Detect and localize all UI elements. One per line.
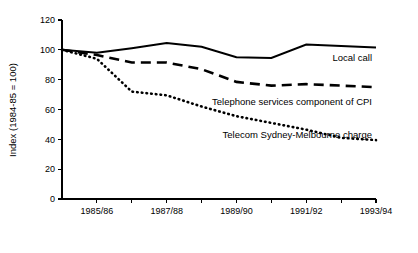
x-tick-label: 1987/88: [150, 206, 183, 216]
x-tick-label: 1989/90: [220, 206, 253, 216]
y-tick-label: 20: [45, 164, 55, 174]
series-line-dashed: [62, 50, 376, 87]
chart-canvas: 020406080100120 1985/861987/881989/90199…: [0, 0, 418, 253]
y-tick-label: 40: [45, 135, 55, 145]
y-tick-label: 60: [45, 105, 55, 115]
line-chart-figure: 020406080100120 1985/861987/881989/90199…: [0, 0, 418, 253]
series-label-1: Local call: [332, 52, 372, 63]
y-axis-ticks: 020406080100120: [40, 15, 62, 204]
plot-axes: [62, 20, 376, 199]
y-axis-title: Index (1984-85 = 100): [7, 63, 18, 157]
x-tick-label: 1991/92: [290, 206, 323, 216]
x-axis-ticks: 1985/861987/881989/901991/921993/94: [81, 199, 393, 216]
y-tick-label: 100: [40, 45, 55, 55]
y-tick-label: 0: [50, 194, 55, 204]
data-series-group: [62, 43, 376, 140]
series-label-3: Telecom Sydney-Melbourne charge: [223, 129, 372, 140]
series-label-2: Telephone services component of CPI: [212, 96, 372, 107]
y-tick-label: 120: [40, 15, 55, 25]
x-tick-label: 1993/94: [360, 206, 393, 216]
x-tick-label: 1985/86: [81, 206, 114, 216]
y-tick-label: 80: [45, 75, 55, 85]
series-line-solid: [62, 43, 376, 58]
